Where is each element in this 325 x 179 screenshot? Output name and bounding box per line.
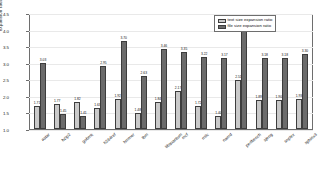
y-tick-label: 1.5 (3, 111, 9, 116)
x-tick-label: bzip2 (61, 132, 72, 142)
bar-group: 1.923.70 (111, 15, 131, 129)
y-tick-mark (26, 97, 29, 98)
bar-value-label: 3.30 (302, 50, 308, 53)
bar-file-size: 4.22 (241, 24, 247, 129)
bar-file-size: 3.18 (282, 58, 288, 129)
x-tick-label: gobmk (81, 132, 94, 144)
bar-group: 1.713.03 (30, 15, 50, 129)
bar-group: 1.843.46 (151, 15, 171, 129)
bar-value-label: 2.95 (100, 62, 106, 65)
bar-file-size: 2.95 (100, 66, 106, 130)
bar-value-label: 3.46 (161, 45, 167, 48)
y-tick-label: 4.0 (3, 28, 9, 33)
bar-file-size: 3.17 (221, 58, 227, 129)
x-tick-label: namd (222, 132, 233, 143)
bar-value-label: 3.17 (221, 54, 227, 57)
bar-group: 1.632.95 (90, 15, 110, 129)
bar-file-size: 3.70 (121, 41, 127, 129)
bar-value-label: 1.77 (54, 100, 60, 103)
bar-group: 1.771.45 (50, 15, 70, 129)
y-tick-label: 4.5 (3, 12, 9, 17)
bar-group: 2.173.35 (171, 15, 191, 129)
x-tick-label: sphinx3 (303, 132, 318, 145)
bar-file-size: 1.45 (60, 114, 66, 129)
x-tick-label: soplex (283, 132, 296, 144)
bar-group: 1.933.30 (292, 15, 312, 129)
bar-value-label: 1.41 (80, 112, 86, 115)
bar-file-size: 3.18 (262, 58, 268, 129)
bar-value-label: 3.35 (181, 48, 187, 51)
y-tick-label: 1.0 (3, 128, 9, 133)
y-tick-mark (26, 113, 29, 114)
bar-file-size: 1.41 (80, 116, 86, 129)
bar-file-size: 3.35 (181, 52, 187, 129)
y-tick-mark (26, 64, 29, 65)
x-tick-label: astar (40, 132, 51, 142)
y-tick-label: 2.0 (3, 94, 9, 99)
legend-swatch-text-size (218, 19, 226, 23)
x-tick-label: libquantum (164, 132, 183, 149)
y-tick-label: 3.0 (3, 61, 9, 66)
legend-swatch-file-size (218, 25, 226, 29)
bar-value-label: 1.45 (60, 110, 66, 113)
bar-file-size: 3.46 (161, 49, 167, 129)
x-tick-label: lbm (140, 132, 149, 140)
bar-group: 1.403.17 (211, 15, 231, 129)
gridline (29, 130, 313, 131)
bar-group: 1.893.18 (252, 15, 272, 129)
legend-label-text-size: text size expansion ratio (228, 18, 273, 22)
bar-value-label: 2.63 (141, 72, 147, 75)
x-tick-label: mcf (181, 132, 190, 140)
bar-file-size: 3.22 (201, 57, 207, 129)
bar-group: 2.514.22 (231, 15, 251, 129)
y-tick-mark (26, 14, 29, 15)
legend-item-file-size: file size expansion ratio (218, 24, 273, 30)
y-tick-mark (26, 80, 29, 81)
y-tick-mark (26, 47, 29, 48)
bar-group: 1.482.63 (131, 15, 151, 129)
bar-group: 1.903.18 (272, 15, 292, 129)
bar-file-size: 3.03 (40, 63, 46, 129)
bar-value-label: 3.18 (282, 54, 288, 57)
y-axis-title: expansion ratio (0, 0, 3, 46)
bar-group: 1.821.41 (70, 15, 90, 129)
x-tick-label: sjeng (262, 132, 273, 142)
chart-legend: text size expansion ratio file size expa… (214, 15, 276, 32)
bar-value-label: 3.18 (261, 54, 267, 57)
bar-value-label: 1.82 (74, 98, 80, 101)
bar-file-size: 2.63 (141, 76, 147, 129)
bars-layer: 1.713.031.771.451.821.411.632.951.923.70… (30, 15, 312, 129)
y-tick-label: 2.5 (3, 78, 9, 83)
x-tick-label: perlbench (244, 132, 262, 148)
legend-label-file-size: file size expansion ratio (228, 24, 272, 28)
bar-chart: expansion ratio 4.54.03.53.02.52.01.51.0… (0, 0, 325, 179)
x-tick-label: hmmer (122, 132, 135, 144)
bar-value-label: 3.03 (40, 59, 46, 62)
y-tick-mark (26, 130, 29, 131)
bar-value-label: 3.70 (120, 37, 126, 40)
y-tick-mark (26, 31, 29, 32)
x-tick-label: h264ref (102, 132, 116, 145)
x-tick-label: milc (201, 132, 210, 141)
y-tick-label: 3.5 (3, 45, 9, 50)
bar-value-label: 3.22 (201, 53, 207, 56)
bar-group: 1.723.22 (191, 15, 211, 129)
bar-file-size: 3.30 (302, 54, 308, 129)
